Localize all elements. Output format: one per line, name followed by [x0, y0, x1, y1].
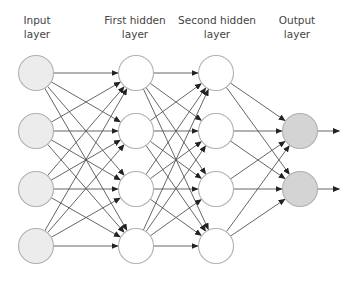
- neural-network-diagram: Input layer First hidden layer Second hi…: [0, 0, 346, 282]
- first-hidden-neuron-3: [119, 172, 154, 207]
- output-neuron-2: [283, 172, 318, 207]
- second-hidden-neuron-3: [199, 172, 234, 207]
- second-hidden-neuron-4: [199, 229, 234, 264]
- neurons: [19, 56, 318, 264]
- input-neuron-4: [19, 229, 54, 264]
- input-neuron-2: [19, 114, 54, 149]
- first-hidden-layer-label-line2: layer: [122, 28, 149, 40]
- first-hidden-neuron-1: [119, 56, 154, 91]
- first-hidden-neuron-4: [119, 229, 154, 264]
- second-hidden-layer-label-line2: layer: [204, 28, 231, 40]
- input-layer-label-line1: Input: [23, 14, 50, 26]
- second-hidden-neuron-1: [199, 56, 234, 91]
- output-neuron-1: [283, 114, 318, 149]
- first-hidden-neuron-2: [119, 114, 154, 149]
- second-hidden-layer-label-line1: Second hidden: [178, 14, 256, 26]
- layer-labels: Input layer First hidden layer Second hi…: [23, 14, 315, 40]
- output-layer-label-line2: layer: [284, 28, 311, 40]
- input-layer-label-line2: layer: [24, 28, 51, 40]
- connection-second-hidden-1-to-output-1: [230, 83, 285, 121]
- input-neuron-1: [19, 56, 54, 91]
- input-neuron-3: [19, 172, 54, 207]
- second-hidden-neuron-2: [199, 114, 234, 149]
- first-hidden-layer-label-line1: First hidden: [104, 14, 165, 26]
- output-layer-label-line1: Output: [279, 14, 315, 26]
- connection-second-hidden-4-to-output-2: [230, 199, 285, 236]
- connections: [45, 73, 340, 246]
